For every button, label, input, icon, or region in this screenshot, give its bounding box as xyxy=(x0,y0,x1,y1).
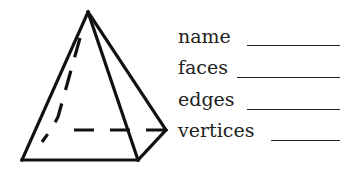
name-label: name xyxy=(178,27,231,46)
edge-apex-back-right xyxy=(88,12,166,130)
faces-answer-blank[interactable] xyxy=(237,77,340,78)
name-answer-blank[interactable] xyxy=(247,45,340,46)
edges-label: edges xyxy=(178,90,235,109)
hidden-edge-apex-back-left xyxy=(42,38,80,142)
vertices-label: vertices xyxy=(178,121,254,140)
edges-answer-blank[interactable] xyxy=(247,109,340,110)
square-pyramid-figure xyxy=(0,0,345,172)
vertices-answer-blank[interactable] xyxy=(271,140,340,141)
edge-apex-front-right xyxy=(88,12,138,160)
edge-apex-front-left xyxy=(22,12,88,160)
edge-base-right xyxy=(138,130,166,160)
faces-label: faces xyxy=(178,58,228,77)
